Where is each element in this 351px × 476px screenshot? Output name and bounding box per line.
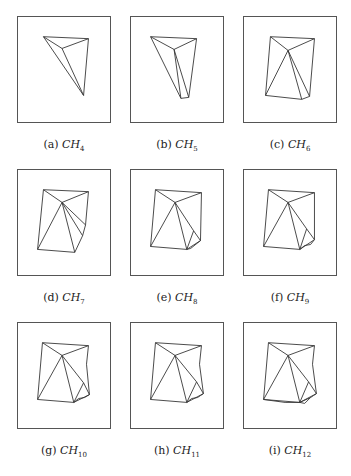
- caption-subscript: 8: [193, 298, 197, 306]
- triangulation-frame: [130, 322, 224, 429]
- caption-symbol: CH: [288, 138, 306, 151]
- panel-c: (c) CH6: [238, 16, 350, 156]
- panel-a: (a) CH4: [12, 16, 124, 156]
- panel-caption: (f) CH9: [238, 291, 342, 306]
- caption-subscript: 10: [78, 451, 87, 459]
- triangulation-graph: [131, 170, 223, 275]
- caption-symbol: CH: [60, 444, 78, 457]
- caption-symbol: CH: [62, 138, 80, 151]
- caption-symbol: CH: [175, 291, 193, 304]
- triangulation-graph: [131, 323, 223, 428]
- triangulation-frame: [243, 16, 337, 123]
- triangulation-frame: [130, 169, 224, 276]
- caption-symbol: CH: [284, 444, 302, 457]
- panel-i: (i) CH12: [238, 322, 350, 462]
- triangulation-graph: [18, 17, 110, 122]
- triangulation-frame: [130, 16, 224, 123]
- panel-b: (b) CH5: [125, 16, 237, 156]
- caption-subscript: 5: [193, 145, 197, 153]
- triangulation-graph: [244, 323, 336, 428]
- panel-d: (d) CH7: [12, 169, 124, 309]
- caption-subscript: 6: [306, 145, 310, 153]
- panel-f: (f) CH9: [238, 169, 350, 309]
- caption-label: (f): [271, 291, 287, 304]
- panel-caption: (c) CH6: [238, 138, 342, 153]
- caption-label: (d): [43, 291, 62, 304]
- triangulation-frame: [17, 169, 111, 276]
- caption-symbol: CH: [62, 291, 80, 304]
- triangulation-frame: [17, 16, 111, 123]
- triangulation-graph: [18, 323, 110, 428]
- panel-caption: (i) CH12: [238, 444, 342, 459]
- panel-caption: (b) CH5: [125, 138, 229, 153]
- caption-symbol: CH: [173, 444, 191, 457]
- triangulation-graph: [244, 17, 336, 122]
- caption-label: (a): [43, 138, 62, 151]
- caption-label: (h): [154, 444, 173, 457]
- caption-label: (c): [270, 138, 288, 151]
- caption-symbol: CH: [175, 138, 193, 151]
- panel-caption: (g) CH10: [12, 444, 116, 459]
- triangulation-frame: [243, 322, 337, 429]
- caption-label: (e): [156, 291, 175, 304]
- caption-label: (i): [269, 444, 285, 457]
- caption-symbol: CH: [287, 291, 305, 304]
- panel-e: (e) CH8: [125, 169, 237, 309]
- caption-subscript: 12: [302, 451, 311, 459]
- triangulation-graph: [131, 17, 223, 122]
- triangulation-frame: [243, 169, 337, 276]
- triangulation-graph: [244, 170, 336, 275]
- panel-caption: (e) CH8: [125, 291, 229, 306]
- caption-subscript: 4: [80, 145, 84, 153]
- triangulation-frame: [17, 322, 111, 429]
- panel-caption: (a) CH4: [12, 138, 116, 153]
- panel-caption: (h) CH11: [125, 444, 229, 459]
- panel-h: (h) CH11: [125, 322, 237, 462]
- panel-caption: (d) CH7: [12, 291, 116, 306]
- caption-subscript: 11: [191, 451, 200, 459]
- panel-g: (g) CH10: [12, 322, 124, 462]
- caption-label: (b): [156, 138, 175, 151]
- caption-label: (g): [41, 444, 60, 457]
- caption-subscript: 9: [305, 298, 309, 306]
- caption-subscript: 7: [80, 298, 84, 306]
- triangulation-graph: [18, 170, 110, 275]
